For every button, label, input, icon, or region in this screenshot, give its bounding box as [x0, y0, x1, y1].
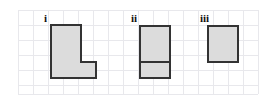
- shape-ii: [140, 26, 170, 78]
- shape-iii-outline: [208, 26, 238, 62]
- shape-i-outline: [51, 25, 96, 78]
- shapes-layer: [0, 0, 275, 107]
- shape-label-ii: ii: [131, 13, 137, 24]
- shape-label-i: i: [44, 13, 47, 24]
- shapes-group: [51, 25, 238, 78]
- shape-i: [51, 25, 96, 78]
- shape-iii: [208, 26, 238, 62]
- shapes-on-grid-figure: i ii iii: [0, 0, 275, 107]
- shape-label-iii: iii: [200, 13, 209, 24]
- shape-ii-outline: [140, 26, 170, 78]
